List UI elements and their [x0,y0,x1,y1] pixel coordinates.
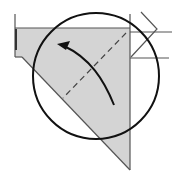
origami-diagram [0,0,178,180]
paper-shape [15,28,130,170]
